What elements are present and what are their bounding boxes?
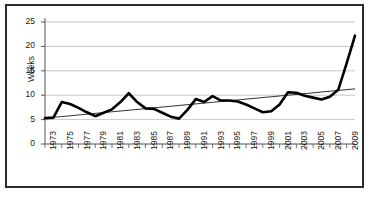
y-tick-label: 25 bbox=[11, 17, 35, 25]
x-tick-label: 1983 bbox=[133, 131, 141, 150]
x-tick-label: 1975 bbox=[66, 131, 74, 150]
chart-plot-container: Weeks 0510152025197319751977197919811983… bbox=[7, 6, 362, 186]
y-tick-label: 5 bbox=[11, 115, 35, 123]
x-tick-label: 1991 bbox=[200, 131, 208, 150]
x-tick-label: 1973 bbox=[49, 131, 57, 150]
x-tick-label: 1995 bbox=[233, 131, 241, 150]
x-tick-label: 1987 bbox=[166, 131, 174, 150]
trendline bbox=[45, 89, 355, 118]
x-tick-label: 1985 bbox=[150, 131, 158, 150]
x-tick-label: 1977 bbox=[83, 131, 91, 150]
y-tick-label: 15 bbox=[11, 66, 35, 74]
x-tick-label: 1993 bbox=[217, 131, 225, 150]
x-tick-label: 2007 bbox=[334, 131, 342, 150]
x-tick-label: 2003 bbox=[300, 131, 308, 150]
y-tick-label: 0 bbox=[11, 139, 35, 147]
x-tick-label: 1981 bbox=[116, 131, 124, 150]
y-tick-label: 20 bbox=[11, 41, 35, 49]
x-tick-label: 1989 bbox=[183, 131, 191, 150]
y-tick-label: 10 bbox=[11, 90, 35, 98]
x-tick-label: 2001 bbox=[284, 131, 292, 150]
x-tick-label: 1997 bbox=[250, 131, 258, 150]
data-line bbox=[45, 36, 355, 119]
x-tick-label: 1979 bbox=[99, 131, 107, 150]
chart-frame: Weeks 0510152025197319751977197919811983… bbox=[5, 4, 364, 188]
line-chart-svg bbox=[7, 6, 362, 186]
x-tick-label: 1999 bbox=[267, 131, 275, 150]
x-tick-label: 2005 bbox=[317, 131, 325, 150]
x-tick-label: 2009 bbox=[351, 131, 359, 150]
